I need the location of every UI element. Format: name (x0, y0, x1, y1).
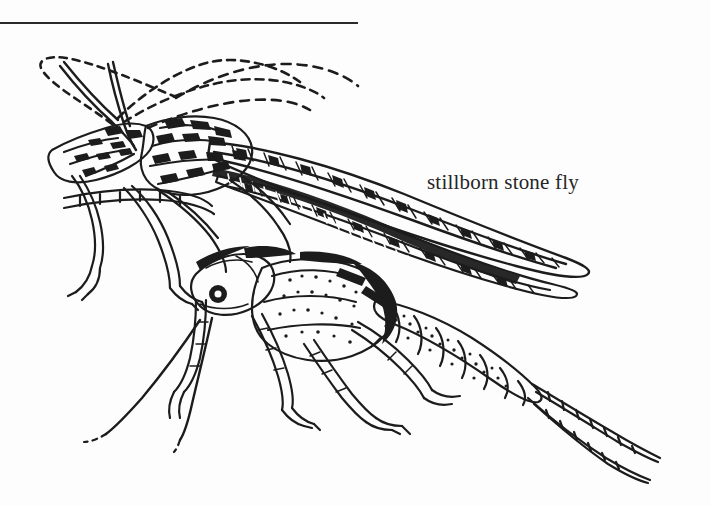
illustration-page: stillborn stone fly (0, 0, 711, 506)
caption-label: stillborn stone fly (427, 170, 579, 194)
adult-leg-far (169, 300, 206, 418)
antenna-lower-right (180, 318, 212, 440)
antenna-lower-left-tip (84, 434, 106, 442)
antenna-dashed-upper-right (118, 60, 324, 122)
antenna-lower-right-tip (174, 440, 180, 452)
adult-foreleg (252, 314, 320, 430)
antenna-lower-left (106, 320, 200, 434)
cercus-lower (528, 398, 650, 483)
shuck-head-shading (74, 126, 143, 176)
adult-thorax-stipple (278, 274, 357, 343)
stonefly-drawing-svg (0, 0, 711, 506)
adult-hindleg (352, 322, 460, 405)
stonefly-illustration (0, 0, 711, 506)
adult-eye-highlight (215, 291, 222, 298)
